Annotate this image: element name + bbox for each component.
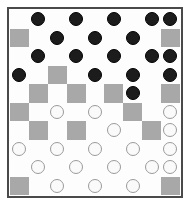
board-square-r3-c6[interactable] — [123, 66, 142, 85]
black-piece[interactable] — [50, 31, 64, 45]
black-piece[interactable] — [107, 49, 121, 63]
black-piece[interactable] — [145, 49, 159, 63]
board-square-r5-c4[interactable] — [86, 103, 105, 122]
board-square-r9-c4[interactable] — [86, 177, 105, 196]
board-square-r4-c4[interactable] — [86, 84, 105, 103]
board-square-r8-c0[interactable] — [10, 158, 29, 177]
board-square-r6-c4[interactable] — [86, 121, 105, 140]
black-piece[interactable] — [163, 49, 177, 63]
board-square-r7-c8[interactable] — [161, 140, 180, 159]
board-square-r0-c0[interactable] — [10, 10, 29, 29]
black-piece[interactable] — [126, 31, 140, 45]
board-square-r8-c8[interactable] — [161, 158, 180, 177]
board-square-r4-c1[interactable] — [29, 84, 48, 103]
white-piece[interactable] — [163, 142, 177, 156]
board-square-r3-c3[interactable] — [67, 66, 86, 85]
board-square-r5-c5[interactable] — [104, 103, 123, 122]
board-square-r9-c7[interactable] — [142, 177, 161, 196]
board-square-r2-c6[interactable] — [123, 47, 142, 66]
white-piece[interactable] — [145, 160, 159, 174]
board-square-r6-c3[interactable] — [67, 121, 86, 140]
black-piece[interactable] — [88, 68, 102, 82]
board-square-r5-c8[interactable] — [161, 103, 180, 122]
board-square-r3-c7[interactable] — [142, 66, 161, 85]
board-square-r8-c2[interactable] — [48, 158, 67, 177]
board-square-r6-c2[interactable] — [48, 121, 67, 140]
board-square-r3-c0[interactable] — [10, 66, 29, 85]
checkers-board-grid[interactable] — [10, 10, 180, 195]
board-square-r0-c1[interactable] — [29, 10, 48, 29]
board-square-r7-c5[interactable] — [104, 140, 123, 159]
board-square-r6-c1[interactable] — [29, 121, 48, 140]
board-square-r0-c5[interactable] — [104, 10, 123, 29]
white-piece[interactable] — [163, 123, 177, 137]
white-piece[interactable] — [50, 105, 64, 119]
board-square-r2-c8[interactable] — [161, 47, 180, 66]
board-square-r2-c4[interactable] — [86, 47, 105, 66]
board-square-r7-c6[interactable] — [123, 140, 142, 159]
board-square-r3-c8[interactable] — [161, 66, 180, 85]
board-square-r0-c8[interactable] — [161, 10, 180, 29]
white-piece[interactable] — [12, 142, 26, 156]
board-square-r0-c2[interactable] — [48, 10, 67, 29]
board-square-r2-c3[interactable] — [67, 47, 86, 66]
board-square-r9-c0[interactable] — [10, 177, 29, 196]
board-square-r2-c7[interactable] — [142, 47, 161, 66]
white-piece[interactable] — [88, 142, 102, 156]
board-square-r4-c0[interactable] — [10, 84, 29, 103]
black-piece[interactable] — [12, 68, 26, 82]
board-square-r2-c2[interactable] — [48, 47, 67, 66]
board-square-r1-c4[interactable] — [86, 29, 105, 48]
board-square-r3-c1[interactable] — [29, 66, 48, 85]
board-square-r9-c8[interactable] — [161, 177, 180, 196]
board-square-r5-c3[interactable] — [67, 103, 86, 122]
board-square-r5-c6[interactable] — [123, 103, 142, 122]
board-square-r8-c1[interactable] — [29, 158, 48, 177]
board-square-r8-c3[interactable] — [67, 158, 86, 177]
board-square-r4-c2[interactable] — [48, 84, 67, 103]
board-square-r9-c5[interactable] — [104, 177, 123, 196]
board-square-r3-c5[interactable] — [104, 66, 123, 85]
board-square-r5-c7[interactable] — [142, 103, 161, 122]
black-piece[interactable] — [107, 12, 121, 26]
black-piece[interactable] — [31, 12, 45, 26]
white-piece[interactable] — [69, 160, 83, 174]
board-square-r4-c3[interactable] — [67, 84, 86, 103]
board-square-r0-c7[interactable] — [142, 10, 161, 29]
board-square-r8-c5[interactable] — [104, 158, 123, 177]
board-square-r7-c0[interactable] — [10, 140, 29, 159]
white-piece[interactable] — [126, 179, 140, 193]
board-square-r4-c5[interactable] — [104, 84, 123, 103]
black-piece[interactable] — [145, 12, 159, 26]
board-square-r8-c6[interactable] — [123, 158, 142, 177]
board-square-r7-c1[interactable] — [29, 140, 48, 159]
board-square-r6-c5[interactable] — [104, 121, 123, 140]
board-square-r7-c3[interactable] — [67, 140, 86, 159]
board-square-r4-c7[interactable] — [142, 84, 161, 103]
white-piece[interactable] — [88, 179, 102, 193]
board-square-r0-c3[interactable] — [67, 10, 86, 29]
board-square-r8-c4[interactable] — [86, 158, 105, 177]
board-square-r9-c2[interactable] — [48, 177, 67, 196]
white-piece[interactable] — [31, 160, 45, 174]
white-piece[interactable] — [88, 105, 102, 119]
board-square-r1-c6[interactable] — [123, 29, 142, 48]
board-square-r3-c2[interactable] — [48, 66, 67, 85]
black-piece[interactable] — [31, 49, 45, 63]
board-square-r0-c4[interactable] — [86, 10, 105, 29]
black-piece[interactable] — [69, 49, 83, 63]
white-piece[interactable] — [107, 160, 121, 174]
board-square-r1-c7[interactable] — [142, 29, 161, 48]
board-square-r1-c5[interactable] — [104, 29, 123, 48]
black-piece[interactable] — [88, 31, 102, 45]
board-square-r6-c6[interactable] — [123, 121, 142, 140]
board-square-r9-c1[interactable] — [29, 177, 48, 196]
board-square-r5-c0[interactable] — [10, 103, 29, 122]
board-square-r6-c0[interactable] — [10, 121, 29, 140]
board-square-r8-c7[interactable] — [142, 158, 161, 177]
board-square-r5-c1[interactable] — [29, 103, 48, 122]
board-square-r6-c8[interactable] — [161, 121, 180, 140]
white-piece[interactable] — [163, 160, 177, 174]
board-square-r4-c8[interactable] — [161, 84, 180, 103]
board-square-r7-c2[interactable] — [48, 140, 67, 159]
